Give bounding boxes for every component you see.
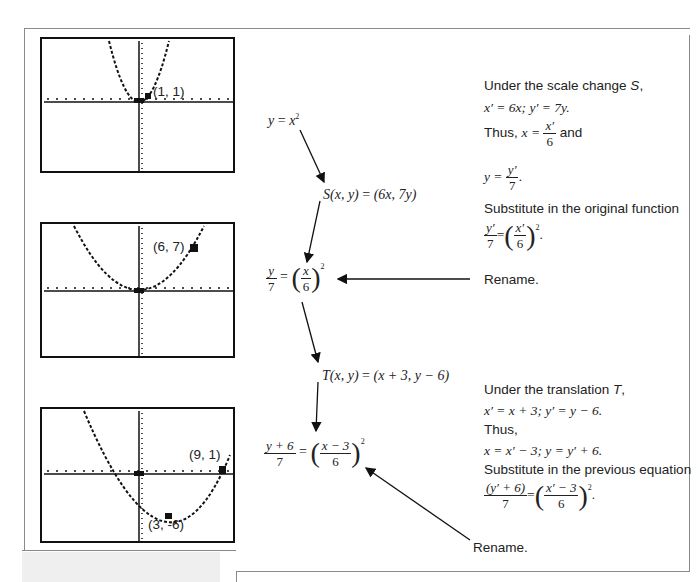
note-translation-line4: x = x′ − 3; y = y′ + 6.	[484, 443, 602, 459]
arrow-to-scaled-equation	[307, 201, 320, 262]
note-translation-line1: Under the translation T,	[484, 382, 625, 398]
arrow-to-translation	[302, 302, 318, 362]
note-translation-line6: (y′ + 6)7=(x′ − 36)2.	[484, 480, 595, 511]
note-scale-line5: Substitute in the original function	[484, 201, 679, 217]
arrow-to-scale	[300, 130, 324, 182]
note-scale-line2: x′ = 6x; y′ = 7y.	[484, 100, 570, 116]
note-translation-line5: Substitute in the previous equation	[484, 462, 691, 478]
note-scale-line4: y = y′7.	[484, 162, 522, 193]
note-scale-rename: Rename.	[484, 272, 539, 288]
note-scale-line3: Thus, x = x′6 and	[484, 118, 582, 149]
note-scale-line6: y′7=(x′6)2.	[484, 220, 543, 251]
note-translation-rename: Rename.	[473, 540, 528, 556]
note-translation-line3: Thus,	[484, 422, 518, 438]
arrow-to-translated-equation	[316, 382, 318, 431]
note-scale-line1: Under the scale change S,	[484, 78, 643, 94]
arrow-rename-2	[366, 468, 470, 540]
note-translation-line2: x′ = x + 3; y′ = y − 6.	[484, 403, 602, 419]
